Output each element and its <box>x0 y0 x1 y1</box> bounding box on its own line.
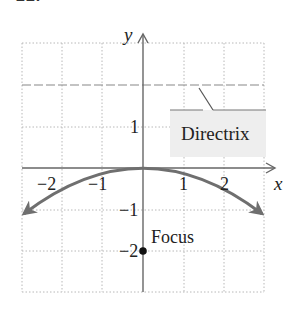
x-tick-2: 2 <box>220 174 229 194</box>
axes <box>22 34 275 292</box>
x-tick-neg1: −1 <box>88 174 107 194</box>
x-tick-neg2: −2 <box>37 174 56 194</box>
y-axis-label: y <box>122 24 133 45</box>
x-tick-1: 1 <box>179 174 188 194</box>
focus-point <box>139 247 147 255</box>
parabola-figure: Directrix Focus y x −2 −1 1 2 1 −1 −2 <box>0 0 296 311</box>
y-tick-1: 1 <box>130 117 139 137</box>
y-tick-neg1: −1 <box>119 200 138 220</box>
focus-label: Focus <box>151 227 194 247</box>
directrix-callout: Directrix <box>170 88 266 157</box>
y-tick-neg2: −2 <box>119 241 138 261</box>
directrix-label: Directrix <box>181 123 250 144</box>
x-axis-label: x <box>273 173 283 194</box>
